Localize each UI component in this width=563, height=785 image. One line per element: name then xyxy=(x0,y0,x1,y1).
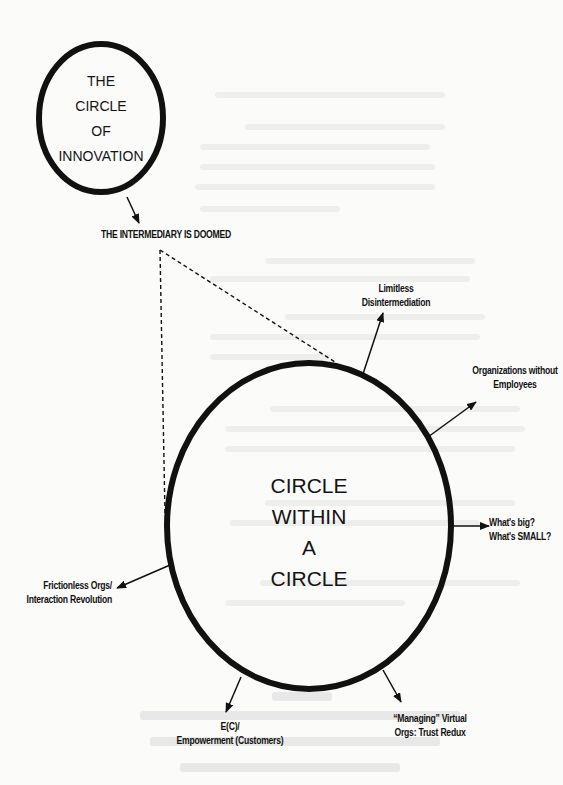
label-empowerment-customers: E(C)/ Empowerment (Customers) xyxy=(173,719,288,747)
dashed-line-vertical xyxy=(160,250,165,515)
label-intermediary-doomed: THE INTERMEDIARY IS DOOMED xyxy=(101,227,231,241)
label-whats-big-whats-small: What's big? What's SMALL? xyxy=(489,515,551,543)
label-text: THE INTERMEDIARY IS DOOMED xyxy=(101,228,231,240)
label-line: Employees xyxy=(462,377,563,391)
label-line: Frictionless Orgs/ xyxy=(20,578,112,592)
label-managing-virtual-orgs: “Managing” Virtual Orgs: Trust Redux xyxy=(385,711,475,739)
label-line: Orgs: Trust Redux xyxy=(385,725,475,739)
label-organizations-without-employees: Organizations without Employees xyxy=(462,363,563,391)
small-circle-line: CIRCLE xyxy=(46,94,156,119)
big-circle-line: A xyxy=(239,532,379,563)
big-circle-line: CIRCLE xyxy=(239,563,379,594)
label-line: “Managing” Virtual xyxy=(385,711,475,725)
big-circle-line: WITHIN xyxy=(239,501,379,532)
label-line: Disintermediation xyxy=(355,295,437,309)
small-circle-line: THE xyxy=(46,69,156,94)
arrow-to-frictionless xyxy=(117,565,170,588)
label-limitless-disintermediation: Limitless Disintermediation xyxy=(355,281,437,309)
label-line: What's big? xyxy=(489,515,551,529)
label-line: Organizations without xyxy=(462,363,563,377)
arrow-to-empowerment xyxy=(226,677,241,712)
small-circle-line: INNOVATION xyxy=(46,144,156,169)
arrow-to-managing-virtual xyxy=(383,670,401,702)
dashed-line-diagonal xyxy=(160,250,335,362)
big-circle-title: CIRCLE WITHIN A CIRCLE xyxy=(239,470,379,594)
label-line: Limitless xyxy=(355,281,437,295)
label-line: E(C)/ xyxy=(173,719,288,733)
label-line: Interaction Revolution xyxy=(20,592,112,606)
arrow-to-limitless xyxy=(363,313,383,374)
small-circle-title: THE CIRCLE OF INNOVATION xyxy=(46,69,156,169)
big-circle-line: CIRCLE xyxy=(239,470,379,501)
label-line: Empowerment (Customers) xyxy=(173,733,288,747)
arrow-to-orgs-without-employees xyxy=(428,402,476,437)
label-line: What's SMALL? xyxy=(489,529,551,543)
arrow-to-intermediary xyxy=(127,197,139,223)
label-frictionless-orgs: Frictionless Orgs/ Interaction Revolutio… xyxy=(20,578,112,606)
small-circle-line: OF xyxy=(46,119,156,144)
